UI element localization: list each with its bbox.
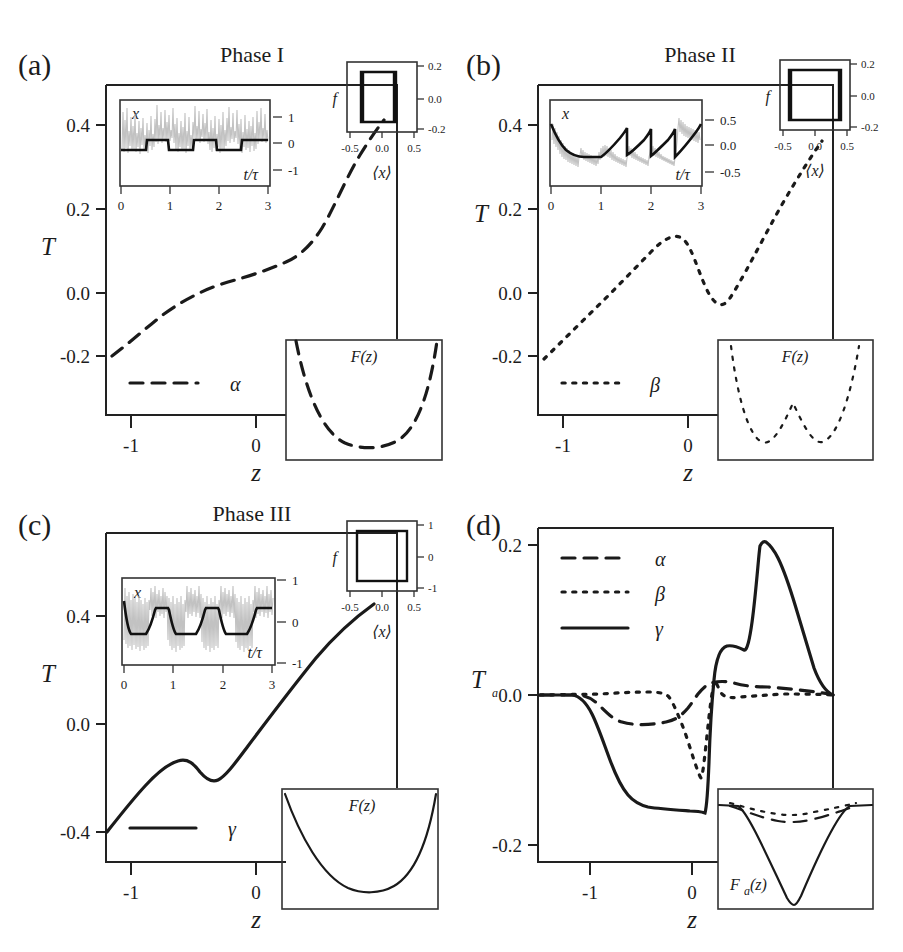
panel-b-hyst-ylabel: f [766,88,773,106]
panel-a-hyst-xticks: -0.5 0.0 0.5 [341,132,421,154]
panel-b-trace-ylabel: x [561,105,569,122]
panel-d-curve-gamma [540,542,833,813]
panel-c: (c) Phase III 0.4 0.0 -0.4 T -1 0 z γ [18,501,438,933]
panel-a-title: Phase I [220,42,284,67]
panel-a-hyst-loop [361,72,396,122]
panel-c-hyst-yticks: 1 0 -1 [417,519,437,594]
panel-b-x-axis-label: z [682,459,693,486]
panel-a-hyst-ytick-0: 0.2 [428,60,442,72]
panel-b-potential-label: F(z) [781,348,809,366]
panel-d-frame-top [538,528,833,788]
panel-c-frame-left [106,533,286,862]
panel-a-legend: α [130,373,241,395]
panel-c-hyst-loop [357,531,407,581]
panel-c-ytick-0: 0.4 [66,606,90,627]
panel-c-hyst-ytick-2: -1 [428,582,437,594]
panel-a-label: (a) [18,48,51,82]
panel-a-ytick-1: 0.2 [66,199,90,220]
panel-d-xtick-0: -1 [582,882,598,903]
panel-b-trace-ytick-0: 0.5 [720,113,736,128]
panel-b-hyst-yticks: 0.2 0.0 -0.2 [850,58,878,133]
panel-b-title: Phase II [664,42,735,67]
panel-d-yticks: 0.2 0.0 -0.2 [492,535,538,856]
figure-svg: (a) Phase I 0.4 0.2 0.0 -0.2 T -1 0 z [0,0,903,952]
panel-b-trace-xtick-3: 3 [698,198,705,213]
panel-d-y-axis-sub: a [492,686,498,700]
panel-a-hyst-xtick-0: -0.5 [341,142,359,154]
panel-b-trace-yticks: 0.5 0.0 -0.5 [705,113,741,180]
panel-a-yticks: 0.4 0.2 0.0 -0.2 [60,115,106,367]
panel-c-trace-xtick-0: 0 [121,677,128,692]
panel-c-ytick-1: 0.0 [66,714,90,735]
panel-c-trace-xticks: 0 1 2 3 [121,665,276,692]
panel-c-trace-ylabel: x [133,584,141,601]
panel-c-legend: γ [130,818,237,841]
panel-a-potential-inset: F(z) [286,340,442,460]
panel-b-trace-xlabel: t/τ [675,166,691,183]
panel-c-trace-noise [124,586,273,652]
panel-a-curve-alpha [112,120,384,356]
panel-b-trace-ytick-1: 0.0 [720,138,736,153]
panel-a-hyst-yticks: 0.2 0.0 -0.2 [417,60,445,135]
panel-b-legend-label: β [649,374,660,397]
panel-d-y-axis-label: T [471,666,487,693]
panel-b-trace-ytick-2: -0.5 [720,165,741,180]
panel-a-hysteresis-inset: f 0.2 0.0 -0.2 -0.5 0.0 0.5 ⟨x⟩ [333,60,446,181]
panel-d-ytick-1: 0.0 [498,685,522,706]
panel-b-ytick-3: -0.2 [492,346,522,367]
panel-a-hyst-xtick-1: 0.0 [375,142,389,154]
panel-b-ytick-2: 0.0 [498,283,522,304]
panel-a-potential-label: F(z) [350,348,378,366]
panel-b-xtick-0: -1 [555,435,571,456]
panel-c-xtick-1: 0 [251,882,261,903]
panel-d-potential-label-tail: (z) [750,876,767,894]
panel-c-trace-xtick-1: 1 [170,677,177,692]
panel-a-trace-ytick-2: -1 [288,163,299,178]
panel-c-hyst-ylabel: f [333,549,340,567]
panel-a-hyst-xlabel: ⟨x⟩ [372,164,392,181]
panel-c-hyst-xtick-1: 0.0 [375,601,389,613]
panel-b-hyst-ytick-0: 0.2 [861,58,875,70]
panel-a-trace-inset: x t/τ 1 0 -1 0 1 2 [118,100,299,213]
panel-a-trace-ytick-0: 1 [288,110,295,125]
panel-d: (d) 0.2 0.0 -0.2 T a -1 0 z α [466,508,873,933]
panel-b-trace-xticks: 0 1 2 3 [548,186,705,213]
panel-a-hyst-xtick-2: 0.5 [407,142,421,154]
panel-b-ytick-0: 0.4 [498,115,522,136]
panel-d-label: (d) [466,508,501,542]
panel-d-legend-label-alpha: α [655,548,666,570]
panel-b-hyst-ytick-1: 0.0 [861,90,875,102]
panel-b-yticks: 0.4 0.2 0.0 -0.2 [492,115,538,367]
panel-d-curve-beta [540,680,833,778]
panel-a-xtick-1: 0 [251,435,261,456]
panel-d-xticks: -1 0 [582,862,697,903]
panel-c-y-axis-label: T [41,660,57,687]
panel-a-legend-label: α [230,373,241,395]
panel-c-xticks: -1 0 [123,862,261,903]
panel-c-hyst-ytick-0: 1 [428,519,434,531]
panel-d-legend-label-gamma: γ [655,618,664,641]
panel-c-hysteresis-inset: f 1 0 -1 -0.5 0.0 0.5 ⟨x⟩ [333,519,438,640]
panel-c-hyst-xticks: -0.5 0.0 0.5 [341,591,421,613]
panel-a-hyst-ylabel: f [333,90,340,108]
panel-b-xtick-1: 0 [683,435,693,456]
panel-a-trace-xtick-0: 0 [118,198,125,213]
panel-a-ytick-3: -0.2 [60,346,90,367]
panel-c-hyst-xtick-0: -0.5 [341,601,359,613]
panel-c-trace-xtick-2: 2 [220,677,227,692]
panel-c-title: Phase III [213,501,292,526]
panel-c-trace-ytick-0: 1 [292,573,299,588]
panel-a-trace-noise [122,105,268,154]
panel-b-trace-xtick-2: 2 [648,198,655,213]
panel-c-label: (c) [18,508,51,542]
panel-d-legend-label-beta: β [654,583,665,606]
panel-d-potential-curve-gamma [719,805,872,905]
panel-b-hyst-ytick-2: -0.2 [861,121,878,133]
figure-root: (a) Phase I 0.4 0.2 0.0 -0.2 T -1 0 z [0,0,903,952]
panel-c-trace-ytick-1: 0 [292,615,299,630]
panel-d-ytick-0: 0.2 [498,535,522,556]
panel-b-hysteresis-inset: f 0.2 0.0 -0.2 -0.5 0.0 0.5 ⟨x⟩ [766,58,879,179]
panel-c-hyst-xtick-2: 0.5 [407,601,421,613]
panel-c-hyst-ytick-1: 0 [428,551,434,563]
panel-b-label: (b) [466,48,501,82]
